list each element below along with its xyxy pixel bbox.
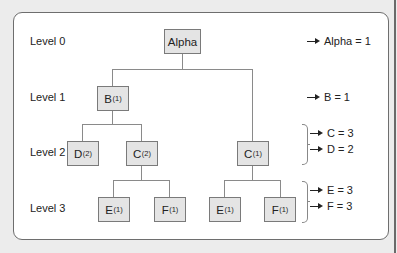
node-c-left: C(2)	[126, 141, 158, 166]
connector-to-c-right	[252, 69, 253, 141]
node-alpha: Alpha	[164, 29, 201, 54]
node-e-right-label: E	[216, 204, 224, 216]
arrow-right-icon	[307, 94, 320, 101]
node-f-right-label: F	[272, 204, 279, 216]
total-d: D = 2	[310, 143, 354, 155]
node-e-left-count: (1)	[114, 205, 123, 214]
node-c-left-count: (2)	[142, 149, 151, 158]
connector-level2-left-bar	[82, 124, 142, 125]
node-b: B(1)	[97, 86, 129, 111]
level-1-label: Level 1	[30, 91, 65, 103]
arrow-right-icon	[310, 187, 323, 194]
total-e: E = 3	[310, 184, 353, 196]
total-b-text: B = 1	[324, 91, 350, 103]
node-b-count: (1)	[113, 94, 122, 103]
node-e-left: E(1)	[98, 197, 130, 222]
brace-level3	[302, 181, 308, 223]
node-e-right: E(1)	[209, 197, 241, 222]
page-edge-rule	[394, 0, 396, 253]
node-d-left-count: (2)	[83, 149, 92, 158]
connector-to-e-left	[113, 180, 114, 197]
total-c-text: C = 3	[327, 127, 354, 139]
total-f: F = 3	[310, 200, 352, 212]
total-alpha: Alpha = 1	[307, 35, 371, 47]
total-f-text: F = 3	[327, 200, 352, 212]
connector-to-b	[112, 69, 113, 86]
node-d-left-label: D	[74, 148, 82, 160]
level-0-label: Level 0	[30, 35, 65, 47]
connector-level3-right-bar	[224, 180, 281, 181]
node-e-left-label: E	[105, 204, 113, 216]
connector-alpha-down	[182, 54, 183, 69]
node-f-left-count: (1)	[169, 205, 178, 214]
connector-b-down	[112, 110, 113, 124]
node-c-right-label: C	[244, 148, 252, 160]
connector-level3-left-bar	[113, 180, 170, 181]
node-b-label: B	[104, 93, 112, 105]
node-f-right-count: (1)	[279, 205, 288, 214]
arrow-right-icon	[310, 146, 323, 153]
connector-to-f-right	[280, 180, 281, 197]
connector-to-d-left	[82, 124, 83, 141]
level-2-label: Level 2	[30, 146, 65, 158]
arrow-right-icon	[307, 38, 320, 45]
connector-c-right-down	[252, 165, 253, 180]
node-c-right-count: (1)	[253, 149, 262, 158]
connector-c-left-down	[141, 165, 142, 180]
connector-to-e-right	[224, 180, 225, 197]
level-3-label: Level 3	[30, 202, 65, 214]
total-b: B = 1	[307, 91, 350, 103]
node-d-left: D(2)	[67, 141, 99, 166]
node-f-left-label: F	[162, 204, 169, 216]
node-c-left-label: C	[133, 148, 141, 160]
total-alpha-text: Alpha = 1	[324, 35, 371, 47]
total-d-text: D = 2	[327, 143, 354, 155]
node-c-right: C(1)	[237, 141, 269, 166]
connector-level1-bar	[112, 69, 253, 70]
node-e-right-count: (1)	[225, 205, 234, 214]
node-f-left: F(1)	[154, 197, 186, 222]
node-f-right: F(1)	[264, 197, 296, 222]
total-c: C = 3	[310, 127, 354, 139]
connector-to-c-left	[141, 124, 142, 141]
arrow-right-icon	[310, 130, 323, 137]
arrow-right-icon	[310, 203, 323, 210]
connector-to-f-left	[169, 180, 170, 197]
node-alpha-label: Alpha	[168, 36, 197, 48]
total-e-text: E = 3	[327, 184, 353, 196]
